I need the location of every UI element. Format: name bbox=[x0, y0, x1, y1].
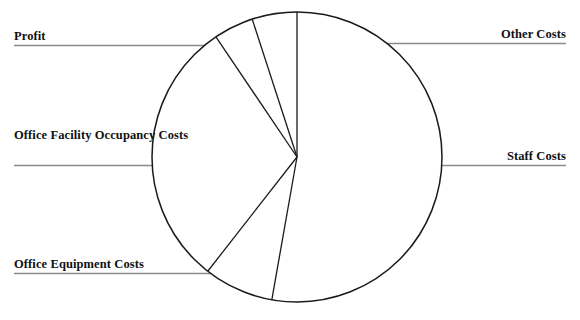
slice-label-profit: Profit bbox=[14, 29, 46, 44]
slice-label-office-facility-occupancy-costs: Office Facility Occupancy Costs bbox=[14, 128, 194, 143]
slice-label-other-costs: Other Costs bbox=[366, 27, 566, 42]
slice-label-staff-costs: Staff Costs bbox=[366, 149, 566, 164]
pie-chart-figure: Profit Other Costs Office Facility Occup… bbox=[0, 0, 580, 320]
slice-label-office-equipment-costs: Office Equipment Costs bbox=[14, 257, 144, 272]
